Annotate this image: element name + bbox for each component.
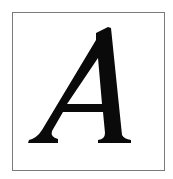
letter-a-glyph xyxy=(0,0,173,179)
